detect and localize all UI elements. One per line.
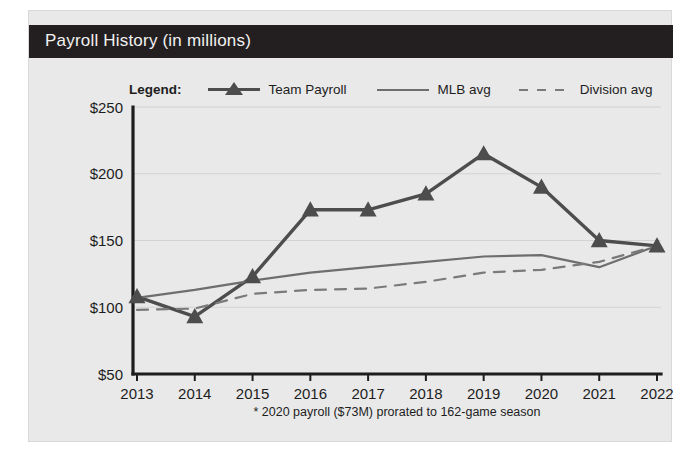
data-point-markers — [129, 145, 666, 323]
data-point-marker — [475, 145, 492, 160]
x-axis-tick-label: 2015 — [236, 385, 269, 402]
x-axis-tick-label: 2016 — [294, 385, 327, 402]
x-axis-tick-label: 2017 — [351, 385, 384, 402]
chart-footnote: * 2020 payroll ($73M) prorated to 162-ga… — [254, 405, 541, 419]
y-axis-tick-label: $250 — [90, 99, 123, 116]
page-title: Payroll History (in millions) — [45, 31, 251, 51]
data-series-layer — [137, 154, 657, 317]
chart-plot-area: $50$100$150$200$250 20132014201520162017… — [29, 91, 673, 443]
series-line-team-payroll — [137, 154, 657, 317]
x-axis-tick-label: 2019 — [467, 385, 500, 402]
page-canvas: Payroll History (in millions) Legend: Te… — [0, 0, 698, 459]
y-axis-tick-label: $50 — [98, 366, 123, 383]
series-line-mlb-avg — [137, 246, 657, 298]
y-axis-tick-label: $200 — [90, 165, 123, 182]
y-axis-tick-label: $150 — [90, 232, 123, 249]
x-axis-tick-label: 2022 — [640, 385, 673, 402]
x-axis-tick-label: 2018 — [409, 385, 442, 402]
x-axis-tick-label: 2013 — [120, 385, 153, 402]
x-axis-tick-label: 2014 — [178, 385, 211, 402]
data-point-marker — [417, 185, 434, 200]
data-point-marker — [533, 179, 550, 194]
payroll-line-chart: $50$100$150$200$250 20132014201520162017… — [29, 91, 673, 443]
card-header-band: Payroll History (in millions) — [29, 25, 673, 58]
y-axis-tick-labels: $50$100$150$200$250 — [90, 99, 123, 383]
y-axis-tick-label: $100 — [90, 299, 123, 316]
payroll-history-card: Payroll History (in millions) Legend: Te… — [28, 10, 672, 442]
series-line-division-avg — [137, 246, 657, 310]
data-point-marker — [129, 288, 146, 303]
x-axis-tick-label: 2021 — [583, 385, 616, 402]
x-axis-tick-label: 2020 — [525, 385, 558, 402]
gridlines — [133, 107, 661, 374]
x-axis-tick-labels: 2013201420152016201720182019202020212022 — [120, 385, 673, 402]
